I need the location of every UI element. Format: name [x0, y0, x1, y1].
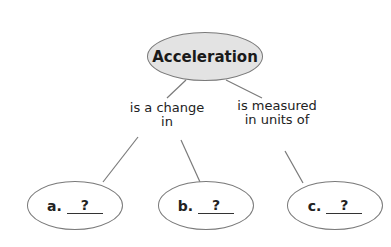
answer-blank-b: ?: [198, 198, 234, 214]
answer-blank-a: ?: [67, 198, 103, 214]
answer-blank-c: ?: [326, 198, 362, 214]
leaf-node-b: b. ?: [158, 181, 254, 230]
leaf-node-a: a. ?: [27, 181, 123, 230]
root-node-acceleration: Acceleration: [147, 32, 263, 81]
leaf-node-c: c. ?: [287, 181, 383, 230]
root-label: Acceleration: [152, 48, 258, 66]
link-label-measured: is measured in units of: [222, 99, 332, 127]
link-label-change: is a change in: [112, 101, 222, 129]
